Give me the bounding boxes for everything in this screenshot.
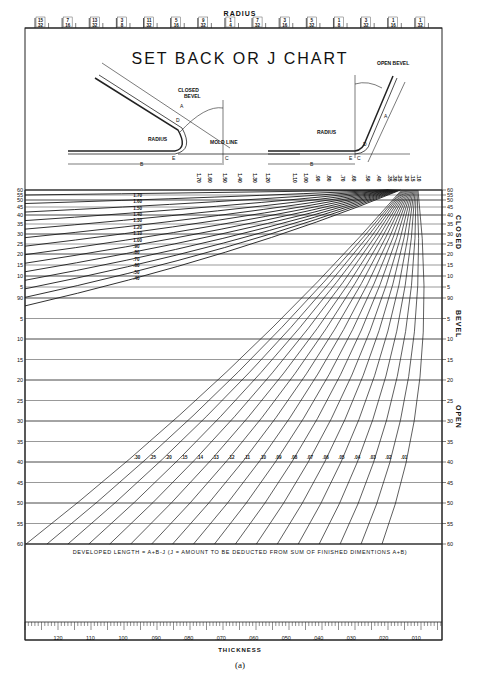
svg-text:35: 35 — [17, 221, 23, 227]
svg-text:10: 10 — [17, 336, 23, 342]
svg-text:35: 35 — [447, 221, 453, 227]
svg-text:.50: .50 — [365, 175, 371, 182]
open-label: OPEN — [455, 405, 462, 429]
svg-text:1.20: 1.20 — [133, 225, 142, 230]
svg-text:.60: .60 — [351, 175, 357, 182]
svg-text:.080: .080 — [183, 635, 194, 641]
svg-text:35: 35 — [447, 439, 453, 445]
svg-text:8: 8 — [121, 23, 124, 28]
svg-text:30: 30 — [17, 231, 23, 237]
svg-text:40: 40 — [17, 459, 23, 465]
svg-text:45: 45 — [17, 204, 23, 210]
svg-text:OPEN BEVEL: OPEN BEVEL — [377, 60, 409, 66]
svg-text:.14: .14 — [197, 455, 204, 460]
svg-text:.80: .80 — [326, 175, 332, 182]
svg-text:32: 32 — [147, 23, 153, 28]
svg-text:50: 50 — [447, 197, 453, 203]
svg-text:20: 20 — [17, 251, 23, 257]
svg-text:RADIUS: RADIUS — [317, 129, 337, 135]
svg-text:1.70: 1.70 — [133, 193, 142, 198]
svg-text:50: 50 — [17, 500, 23, 506]
svg-text:.05: .05 — [338, 455, 345, 460]
svg-text:D: D — [363, 141, 367, 147]
svg-text:.70: .70 — [340, 175, 346, 182]
svg-text:1.30: 1.30 — [133, 218, 142, 223]
bevel-label: BEVEL — [455, 310, 462, 338]
svg-text:5: 5 — [20, 284, 23, 290]
svg-text:45: 45 — [447, 480, 453, 486]
svg-text:.20: .20 — [404, 175, 410, 182]
svg-text:25: 25 — [447, 241, 453, 247]
svg-text:.15: .15 — [181, 455, 188, 460]
svg-text:.50: .50 — [133, 270, 140, 275]
svg-text:.80: .80 — [133, 250, 140, 255]
svg-text:90: 90 — [17, 295, 23, 301]
svg-text:5: 5 — [20, 316, 23, 322]
svg-text:15: 15 — [447, 357, 453, 363]
svg-text:.12: .12 — [228, 455, 235, 460]
svg-text:32: 32 — [364, 23, 370, 28]
svg-text:.20: .20 — [165, 455, 172, 460]
svg-text:.050: .050 — [280, 635, 291, 641]
svg-text:110: 110 — [86, 635, 95, 641]
svg-text:30: 30 — [17, 418, 23, 424]
svg-text:50: 50 — [447, 500, 453, 506]
svg-text:.25: .25 — [397, 175, 403, 182]
svg-text:.10: .10 — [260, 455, 267, 460]
svg-text:32: 32 — [255, 23, 261, 28]
svg-text:.01: .01 — [401, 455, 408, 460]
svg-text:25: 25 — [17, 398, 23, 404]
svg-text:.03: .03 — [370, 455, 377, 460]
svg-text:90: 90 — [447, 295, 453, 301]
svg-text:32: 32 — [92, 23, 98, 28]
svg-text:1.40: 1.40 — [133, 212, 142, 217]
svg-text:.010: .010 — [410, 635, 421, 641]
svg-text:.10: .10 — [416, 175, 422, 182]
svg-text:1.20: 1.20 — [265, 173, 271, 183]
svg-text:1.10: 1.10 — [292, 173, 298, 183]
svg-text:.11: .11 — [244, 455, 251, 460]
chart-canvas: 1532716133238113251693214732316532183321… — [0, 0, 480, 676]
svg-text:A: A — [384, 113, 388, 119]
svg-text:5: 5 — [447, 284, 450, 290]
svg-text:BEVEL: BEVEL — [184, 93, 201, 99]
svg-text:1.50: 1.50 — [133, 206, 142, 211]
svg-text:.08: .08 — [291, 455, 298, 460]
svg-text:25: 25 — [17, 241, 23, 247]
svg-text:60: 60 — [17, 541, 23, 547]
svg-text:.020: .020 — [378, 635, 389, 641]
svg-text:16: 16 — [282, 23, 288, 28]
svg-text:10: 10 — [447, 273, 453, 279]
svg-text:50: 50 — [17, 197, 23, 203]
svg-text:40: 40 — [447, 459, 453, 465]
svg-text:1.00: 1.00 — [303, 173, 309, 183]
svg-text:32: 32 — [38, 23, 44, 28]
svg-text:1.40: 1.40 — [237, 173, 243, 183]
svg-text:35: 35 — [17, 439, 23, 445]
thickness-axis-title: THICKNESS — [0, 647, 480, 653]
svg-text:E: E — [172, 155, 176, 161]
svg-text:.070: .070 — [215, 635, 226, 641]
svg-text:15: 15 — [447, 262, 453, 268]
svg-text:.40: .40 — [133, 276, 140, 281]
svg-text:.15: .15 — [410, 175, 416, 182]
svg-text:D: D — [176, 117, 180, 123]
svg-text:.13: .13 — [213, 455, 220, 460]
svg-text:16: 16 — [174, 23, 180, 28]
svg-text:1.70: 1.70 — [196, 173, 202, 183]
svg-text:E: E — [349, 155, 353, 161]
svg-text:8: 8 — [338, 23, 341, 28]
svg-text:1.10: 1.10 — [133, 231, 142, 236]
svg-text:40: 40 — [447, 212, 453, 218]
svg-text:1.60: 1.60 — [133, 199, 142, 204]
developed-length-note: DEVELOPED LENGTH = A+B-J (J = AMOUNT TO … — [35, 549, 445, 555]
svg-text:4: 4 — [229, 23, 232, 28]
svg-text:60: 60 — [447, 541, 453, 547]
svg-text:10: 10 — [17, 273, 23, 279]
svg-text:.09: .09 — [275, 455, 282, 460]
svg-text:55: 55 — [17, 521, 23, 527]
svg-text:32: 32 — [309, 23, 315, 28]
svg-text:5: 5 — [447, 316, 450, 322]
svg-text:C: C — [357, 155, 361, 161]
svg-text:.07: .07 — [307, 455, 314, 460]
